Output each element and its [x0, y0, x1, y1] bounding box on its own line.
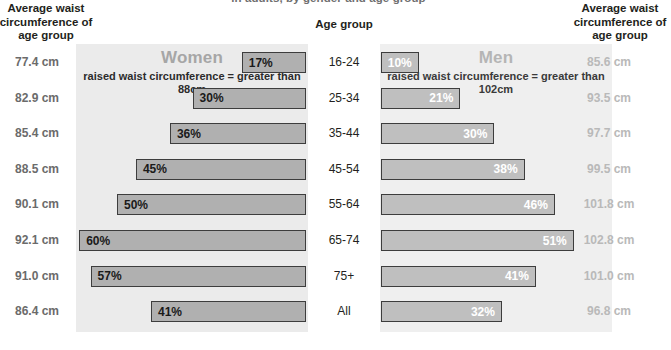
men-bar: 32%	[381, 301, 502, 322]
women-bar-value: 50%	[124, 195, 148, 214]
women-average-waist-label: 86.4 cm	[0, 304, 74, 318]
women-bar-value: 30%	[200, 89, 224, 108]
men-average-waist-label: 99.5 cm	[572, 162, 646, 176]
chart-row: 82.9 cm30%25-3421%93.5 cm	[0, 83, 657, 118]
men-average-waist-label: 101.0 cm	[572, 269, 646, 283]
men-bar-value: 51%	[543, 231, 567, 250]
women-average-waist-label: 92.1 cm	[0, 233, 74, 247]
women-average-waist-label: 88.5 cm	[0, 162, 74, 176]
men-bar: 41%	[381, 266, 536, 287]
age-group-label: 55-64	[308, 197, 380, 211]
men-bar-value: 10%	[388, 53, 412, 72]
men-average-waist-label: 102.8 cm	[572, 233, 646, 247]
chart-row: 88.5 cm45%45-5438%99.5 cm	[0, 154, 657, 189]
women-bar-value: 17%	[249, 53, 273, 72]
women-bar: 36%	[170, 123, 306, 144]
women-bar: 17%	[242, 52, 306, 73]
women-bar-value: 41%	[158, 302, 182, 321]
women-average-waist-label: 91.0 cm	[0, 269, 74, 283]
men-bar: 10%	[381, 52, 419, 73]
men-average-waist-label: 97.7 cm	[572, 126, 646, 140]
chart-row: 90.1 cm50%55-6446%101.8 cm	[0, 189, 657, 224]
chart-row: 91.0 cm57%75+41%101.0 cm	[0, 261, 657, 296]
men-average-waist-label: 101.8 cm	[572, 197, 646, 211]
age-group-label: 75+	[308, 269, 380, 283]
age-group-label: 16-24	[308, 55, 380, 69]
men-average-waist-label: 96.8 cm	[572, 304, 646, 318]
age-group-label: 35-44	[308, 126, 380, 140]
chart-row: 92.1 cm60%65-7451%102.8 cm	[0, 225, 657, 260]
men-bar: 46%	[381, 194, 555, 215]
men-average-waist-label: 85.6 cm	[572, 55, 646, 69]
women-bar-value: 60%	[86, 231, 110, 250]
chart-row: 77.4 cm17%16-2410%85.6 cm	[0, 47, 657, 82]
men-bar-value: 32%	[471, 302, 495, 321]
chart-row: 85.4 cm36%35-4430%97.7 cm	[0, 118, 657, 153]
women-average-waist-label: 85.4 cm	[0, 126, 74, 140]
men-bar-value: 41%	[505, 267, 529, 286]
women-bar: 57%	[91, 266, 306, 287]
men-average-waist-label: 93.5 cm	[572, 91, 646, 105]
age-group-label: All	[308, 304, 380, 318]
age-group-column-header: Age group	[308, 18, 380, 32]
women-bar-value: 36%	[177, 124, 201, 143]
left-column-header: Average waist circumference of age group	[0, 2, 101, 43]
women-bar-value: 57%	[98, 267, 122, 286]
men-bar: 21%	[381, 88, 460, 109]
women-bar: 41%	[151, 301, 306, 322]
women-average-waist-label: 77.4 cm	[0, 55, 74, 69]
women-average-waist-label: 90.1 cm	[0, 197, 74, 211]
women-average-waist-label: 82.9 cm	[0, 91, 74, 105]
men-bar-value: 21%	[429, 89, 453, 108]
women-bar: 60%	[79, 230, 306, 251]
men-bar: 38%	[381, 159, 525, 180]
men-bar-value: 38%	[494, 160, 518, 179]
women-bar: 30%	[193, 88, 306, 109]
women-bar-value: 45%	[143, 160, 167, 179]
right-column-header: Average waist circumference of age group	[565, 2, 671, 43]
age-group-label: 65-74	[308, 233, 380, 247]
men-bar-value: 46%	[524, 195, 548, 214]
age-group-label: 25-34	[308, 91, 380, 105]
men-bar: 51%	[381, 230, 574, 251]
chart-row: 86.4 cm41%All32%96.8 cm	[0, 296, 657, 331]
women-bar: 50%	[117, 194, 306, 215]
women-bar: 45%	[136, 159, 306, 180]
men-bar: 30%	[381, 123, 494, 144]
age-group-label: 45-54	[308, 162, 380, 176]
men-bar-value: 30%	[463, 124, 487, 143]
